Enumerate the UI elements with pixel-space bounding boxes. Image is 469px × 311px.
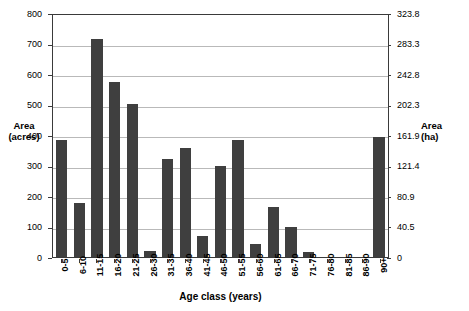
bar-slot [212,15,230,257]
x-axis-tick-label: 76-80 [327,253,336,276]
x-axis-tick-label: 11-15 [96,254,105,277]
bar [162,159,173,257]
y-axis-right-tick-label: 242.8 [391,71,420,80]
x-axis-title: Age class (years) [52,291,389,302]
x-axis-tick-label: 81-85 [345,253,354,276]
bar-slot [370,15,388,257]
bar-slot [282,15,300,257]
y-axis-left-tick-label: 200 [27,193,48,202]
bar-slot [335,15,353,257]
bar [180,148,191,257]
plot-area [52,14,389,258]
x-axis-tick-label: 71-75 [309,253,318,276]
x-axis-tick-label: 86-90 [362,253,371,276]
y-axis-right-tick-label: 161.9 [391,132,420,141]
y-axis-left-tick-label: 500 [27,101,48,110]
bar-slot [88,15,106,257]
bar-slot [229,15,247,257]
bar-chart: Area (acres) 0100200300400500600700800 A… [0,0,469,311]
bar [91,39,102,257]
y-axis-right-tick-label: 40.5 [391,223,415,232]
x-axis-tick-label: 31-35 [167,253,176,276]
bar [373,137,384,257]
y-axis-left: 0100200300400500600700800 [0,14,48,258]
bar [232,140,243,257]
bar-slot [194,15,212,257]
bar-slot [353,15,371,257]
x-axis-tick-label: 51-55 [238,253,247,276]
x-axis-tick-label: 6-10 [79,256,88,274]
bar-slot [71,15,89,257]
bar-slot [141,15,159,257]
y-axis-right: 040.580.9121.4161.9202.3242.8283.3323.8 [391,14,439,258]
y-axis-left-tick-label: 100 [27,223,48,232]
x-axis-tick-label: 21-25 [132,253,141,276]
bar-series [53,15,388,257]
x-axis-tick-label: 0-5 [61,258,70,271]
bar-slot [300,15,318,257]
y-axis-right-tick-label: 121.4 [391,162,420,171]
bar [109,82,120,257]
y-axis-right-tick-label: 202.3 [391,101,420,110]
bar-slot [53,15,71,257]
y-axis-left-tick-label: 700 [27,40,48,49]
y-axis-right-tick-label: 323.8 [391,10,420,19]
y-axis-right-tick-label: 0 [391,254,402,263]
x-axis-tick-label: 41-45 [203,253,212,276]
bar-slot [317,15,335,257]
x-axis-tick-label: 61-65 [274,253,283,276]
bar-slot [176,15,194,257]
x-axis-tick-label: 46-50 [220,253,229,276]
x-axis-tick-label: 90+ [380,257,389,272]
y-axis-left-tick-label: 300 [27,162,48,171]
bar-slot [124,15,142,257]
bar-slot [247,15,265,257]
y-axis-right-tick-label: 80.9 [391,193,415,202]
x-axis-tick-label: 66-70 [291,253,300,276]
bar [268,207,279,257]
y-axis-left-tick-label: 600 [27,71,48,80]
y-axis-left-tick-label: 800 [27,10,48,19]
bar [215,166,226,257]
x-axis-tick-label: 56-60 [256,253,265,276]
x-axis-tick-label: 26-30 [150,253,159,276]
bar-slot [265,15,283,257]
bar [127,104,138,257]
y-axis-right-tick-label: 283.3 [391,40,420,49]
x-axis-tick-label: 36-40 [185,253,194,276]
x-axis-tick-label: 16-20 [114,253,123,276]
bar [56,140,67,257]
y-axis-left-tick-label: 0 [37,254,48,263]
y-axis-left-tick-label: 400 [27,132,48,141]
bar [74,203,85,257]
bar-slot [106,15,124,257]
bar-slot [159,15,177,257]
